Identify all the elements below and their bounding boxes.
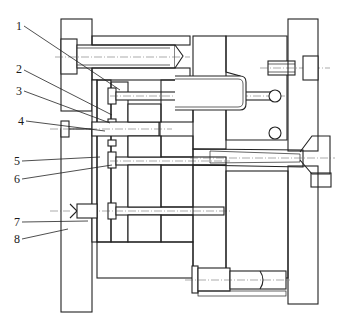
svg-text:6: 6 (14, 172, 20, 186)
svg-text:4: 4 (18, 114, 24, 128)
stop-pin (70, 204, 97, 218)
mold-section-drawing: 1 2 3 4 5 6 7 8 (0, 0, 342, 326)
molded-part (175, 76, 246, 110)
callout-8: 8 (14, 229, 68, 246)
svg-text:2: 2 (16, 62, 22, 76)
svg-text:5: 5 (14, 154, 20, 168)
cooling-channels (269, 90, 281, 139)
callout-5: 5 (14, 154, 100, 168)
cavity-screw (260, 61, 330, 75)
guide-pin (50, 121, 172, 137)
bottom-right-screw (185, 266, 290, 296)
svg-text:7: 7 (14, 215, 20, 229)
svg-text:3: 3 (16, 84, 22, 98)
svg-text:8: 8 (14, 232, 20, 246)
top-left-screw (55, 39, 190, 74)
svg-text:1: 1 (16, 19, 22, 33)
ejector-pins (50, 92, 285, 215)
